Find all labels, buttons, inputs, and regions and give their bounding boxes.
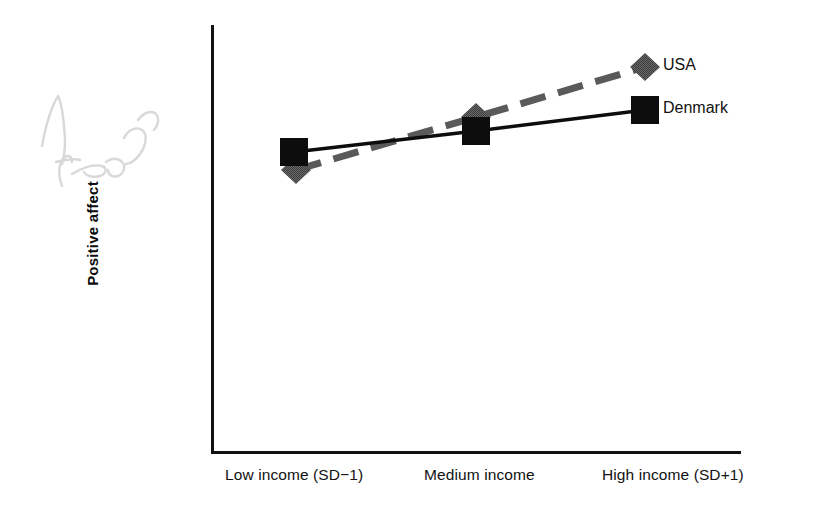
y-axis-title: Positive affect: [84, 134, 101, 334]
x-tick-label-medium-income: Medium income: [424, 466, 535, 484]
x-tick-label-low-income: Low income (SD−1): [225, 466, 363, 484]
chart-canvas: [0, 0, 839, 507]
denmark-marker-low-income: [280, 138, 308, 166]
denmark-marker-medium-income: [462, 117, 490, 145]
chart-figure: Positive affect Low income (SD−1) Medium…: [0, 0, 839, 507]
usa-marker-high-income: [630, 53, 660, 81]
legend-label-denmark: Denmark: [663, 99, 728, 117]
x-tick-label-high-income: High income (SD+1): [602, 466, 744, 484]
denmark-marker-high-income: [631, 96, 659, 124]
legend-label-usa: USA: [663, 56, 696, 74]
axis-lines: [211, 25, 741, 453]
